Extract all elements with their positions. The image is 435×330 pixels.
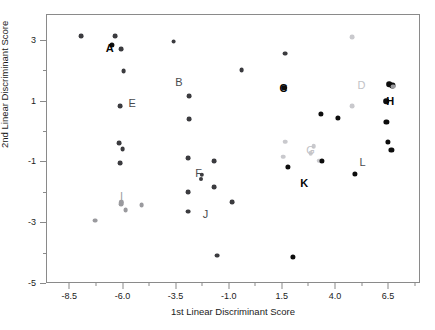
- data-point: [386, 139, 391, 144]
- y-tick-label: 1: [31, 96, 36, 106]
- data-point: [92, 218, 97, 223]
- x-minor-tick: [414, 283, 415, 286]
- data-point: [186, 155, 191, 160]
- group-label-j: J: [203, 208, 209, 219]
- data-point: [119, 47, 124, 52]
- y-tick: [40, 40, 46, 41]
- x-tick-label: 6.5: [382, 291, 395, 301]
- data-point: [283, 51, 288, 56]
- group-label-g: G: [306, 145, 315, 156]
- data-point: [139, 203, 144, 208]
- x-axis-title: 1st Linear Discriminant Score: [171, 306, 295, 317]
- x-minor-tick: [202, 283, 203, 286]
- y-tick: [40, 222, 46, 223]
- x-minor-tick: [361, 283, 362, 286]
- data-point: [211, 185, 216, 190]
- x-minor-tick: [149, 283, 150, 286]
- data-point: [290, 255, 295, 260]
- data-point: [281, 155, 286, 160]
- data-point: [283, 139, 288, 144]
- y-tick-label: -5: [28, 278, 36, 288]
- x-minor-tick: [255, 283, 256, 286]
- x-tick: [335, 283, 336, 289]
- x-tick-label: -6.0: [115, 291, 131, 301]
- group-label-f: F: [195, 167, 202, 178]
- data-point: [384, 119, 389, 124]
- data-point: [215, 253, 220, 258]
- data-point: [117, 141, 122, 146]
- x-tick: [281, 283, 282, 289]
- y-minor-tick: [43, 70, 46, 71]
- data-point: [390, 84, 395, 89]
- data-point: [286, 164, 291, 169]
- plot-area: ABCDEFGHIJKL: [46, 14, 420, 283]
- group-label-k: K: [300, 177, 308, 188]
- group-label-d: D: [358, 79, 366, 90]
- data-point: [389, 147, 394, 152]
- data-point: [350, 104, 355, 109]
- data-point: [123, 208, 128, 213]
- x-tick: [388, 283, 389, 289]
- data-point: [121, 69, 126, 74]
- y-tick: [40, 161, 46, 162]
- y-tick: [40, 101, 46, 102]
- x-minor-tick: [308, 283, 309, 286]
- x-minor-tick: [95, 283, 96, 286]
- x-tick-label: -8.5: [62, 291, 78, 301]
- scatter-chart: ABCDEFGHIJKL -8.5-6.0-3.5-1.01.54.06.531…: [0, 0, 435, 330]
- data-point: [187, 94, 192, 99]
- x-tick: [69, 283, 70, 289]
- data-point: [120, 147, 125, 152]
- y-minor-tick: [43, 192, 46, 193]
- y-tick: [40, 283, 46, 284]
- data-point: [230, 200, 235, 205]
- x-tick-label: 1.5: [276, 291, 289, 301]
- data-point: [211, 159, 216, 164]
- x-tick-label: -3.5: [168, 291, 184, 301]
- data-point: [118, 161, 123, 166]
- data-point: [113, 34, 118, 39]
- data-point: [353, 171, 358, 176]
- data-point: [239, 68, 244, 73]
- data-point: [186, 117, 191, 122]
- y-tick-label: -1: [28, 156, 36, 166]
- x-tick-label: 4.0: [329, 291, 342, 301]
- group-label-c: C: [280, 82, 288, 93]
- data-point: [320, 158, 325, 163]
- group-label-i: I: [120, 191, 123, 202]
- group-label-e: E: [128, 98, 135, 109]
- data-point: [186, 209, 191, 214]
- y-tick-label: -3: [28, 217, 36, 227]
- group-label-b: B: [175, 77, 182, 88]
- data-point: [171, 39, 176, 44]
- x-tick: [228, 283, 229, 289]
- x-tick: [175, 283, 176, 289]
- data-point: [350, 34, 355, 39]
- group-label-a: A: [106, 43, 114, 54]
- x-tick-label: -1.0: [221, 291, 237, 301]
- y-minor-tick: [43, 131, 46, 132]
- group-label-h: H: [386, 96, 394, 107]
- group-label-l: L: [360, 157, 366, 168]
- y-minor-tick: [43, 253, 46, 254]
- data-point: [118, 104, 123, 109]
- data-point: [79, 34, 84, 39]
- x-tick: [122, 283, 123, 289]
- data-point: [336, 116, 341, 121]
- y-tick-label: 3: [31, 35, 36, 45]
- data-point: [186, 189, 191, 194]
- y-axis-title: 2nd Linear Discriminant Score: [0, 21, 10, 148]
- data-point: [319, 112, 324, 117]
